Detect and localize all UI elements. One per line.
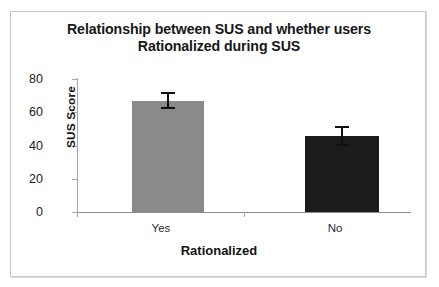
errorbar-yes-cap-bottom (161, 107, 175, 109)
y-axis-title: SUS Score (64, 77, 78, 157)
x-tick-label-yes: Yes (116, 222, 206, 234)
bar-yes[interactable] (132, 101, 204, 212)
y-tick-label-20: 20 (3, 173, 43, 185)
errorbar-yes (154, 92, 182, 109)
errorbar-no-cap-bottom (335, 144, 349, 146)
x-axis-title: Rationalized (11, 243, 427, 258)
errorbar-no-cap-top (335, 126, 349, 128)
plot-area (77, 79, 411, 212)
y-tick-label-40: 40 (3, 140, 43, 152)
errorbar-yes-cap-top (161, 92, 175, 94)
errorbar-no (328, 126, 356, 146)
x-tick-label-no: No (290, 222, 380, 234)
x-tick-center (244, 212, 245, 217)
chart-title-line-2: Rationalized during SUS (11, 38, 427, 55)
chart-title-line-1: Relationship between SUS and whether use… (11, 21, 427, 38)
x-tick-left (77, 212, 78, 217)
bar-no[interactable] (305, 136, 379, 212)
y-tick-label-0: 0 (3, 206, 43, 218)
chart-figure-frame: Relationship between SUS and whether use… (10, 11, 426, 277)
y-tick-label-80: 80 (3, 73, 43, 85)
chart-title: Relationship between SUS and whether use… (11, 21, 427, 55)
y-tick-label-60: 60 (3, 106, 43, 118)
